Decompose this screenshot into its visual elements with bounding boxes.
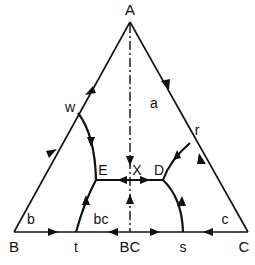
region-label-b: b [27,211,35,227]
point-label-s: s [180,239,187,255]
arrow-icon-edge-c-s [203,228,213,236]
arrow-icon-curve-s-d [177,196,186,206]
point-label-d: D [154,162,164,178]
point-label-e: E [98,162,107,178]
point-label-x: X [132,162,142,178]
arrow-icon-edge-b-t [48,228,58,236]
point-label-t: t [74,239,78,255]
arrow-icon-edge-bc-s [150,228,160,236]
arrow-icon-line-x-e [117,176,127,184]
arrow-icon-join-bc-x [126,194,134,204]
boundary-curve-w-e [78,113,96,180]
region-label-c: c [222,211,229,227]
point-label-bc: BC [120,238,141,255]
point-label-w: w [64,99,76,115]
vertex-label-b: B [9,238,19,255]
vertex-label-a: A [125,1,135,18]
region-label-a: a [150,95,158,111]
region-label-bc: bc [94,211,109,227]
vertex-label-c: C [239,238,250,255]
arrow-icon-edge-bc-t [108,228,118,236]
arrow-icon-curve-w-e [87,137,95,147]
edge-a-c [130,22,248,232]
point-label-r: r [195,122,200,138]
edge-a-b [14,22,130,232]
boundary-curve-r-d [163,143,190,180]
ternary-phase-diagram: A B C w r E D X t BC s a b bc c [0,0,255,265]
